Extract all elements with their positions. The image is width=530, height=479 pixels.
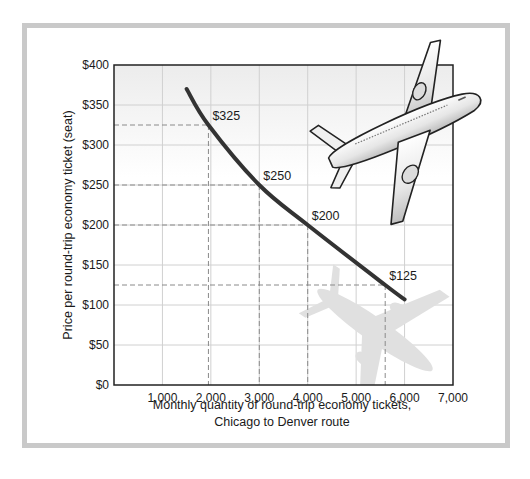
price-point-label: $325 xyxy=(212,109,240,123)
price-point-label: $200 xyxy=(312,209,340,223)
price-point-label: $250 xyxy=(263,169,291,183)
x-axis-title-line-1: Monthly quantity of round-trip economy t… xyxy=(153,398,411,412)
y-tick-label: $400 xyxy=(82,58,109,72)
y-axis-tick-labels: $0$50$100$150$200$250$300$350$400 xyxy=(82,58,109,392)
y-tick-label: $0 xyxy=(96,378,110,392)
y-tick-label: $100 xyxy=(82,298,109,312)
y-tick-label: $350 xyxy=(82,98,109,112)
y-tick-label: $200 xyxy=(82,218,109,232)
y-tick-label: $250 xyxy=(82,178,109,192)
price-point-label: $125 xyxy=(389,269,417,283)
demand-chart: $325$250$200$125 $0$50$100$150$200$250$3… xyxy=(0,0,530,479)
y-tick-label: $150 xyxy=(82,258,109,272)
y-tick-label: $300 xyxy=(82,138,109,152)
y-tick-label: $50 xyxy=(89,338,109,352)
y-axis-title: Price per round-trip economy ticket (sea… xyxy=(61,110,75,339)
x-axis-title-line-2: Chicago to Denver route xyxy=(214,415,350,429)
x-tick-label: 7,000 xyxy=(438,391,468,405)
